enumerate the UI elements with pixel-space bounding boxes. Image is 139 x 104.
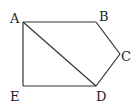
geometry-diagram: A B C D E [0, 0, 139, 104]
label-b: B [99, 9, 109, 24]
label-a: A [9, 11, 20, 26]
diagonal-ad [23, 22, 96, 86]
label-c: C [121, 49, 131, 64]
label-e: E [10, 89, 20, 104]
edge-bc [96, 22, 120, 54]
label-d: D [96, 89, 106, 104]
edge-cd [96, 54, 120, 86]
